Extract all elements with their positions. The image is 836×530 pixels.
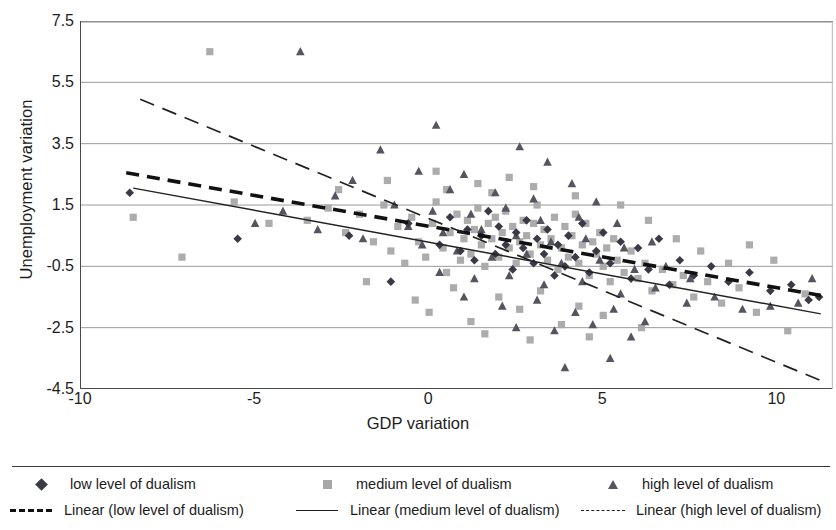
y-tick-label: 1.5 bbox=[4, 196, 74, 214]
data-point-square bbox=[433, 198, 440, 205]
legend-item-thick-dashed-line[interactable]: Linear (low level of dualism) bbox=[0, 497, 244, 523]
data-point-triangle bbox=[428, 207, 437, 215]
data-point-square bbox=[645, 217, 652, 224]
data-point-triangle bbox=[512, 323, 521, 331]
y-tick-label: 3.5 bbox=[4, 135, 74, 153]
thick-dashed-line bbox=[0, 509, 64, 512]
data-point-square bbox=[600, 263, 607, 270]
data-point-square bbox=[478, 241, 485, 248]
solid-line bbox=[284, 510, 350, 511]
data-point-square bbox=[600, 312, 607, 319]
data-point-square bbox=[572, 192, 579, 199]
data-point-square bbox=[370, 238, 377, 245]
x-tick-label: -10 bbox=[68, 390, 91, 408]
data-point-square bbox=[561, 223, 568, 230]
data-point-diamond bbox=[655, 234, 664, 243]
data-point-square bbox=[746, 241, 753, 248]
data-point-square bbox=[178, 254, 185, 261]
x-tick-label: 5 bbox=[598, 390, 607, 408]
triangle-marker bbox=[584, 480, 642, 489]
data-point-triangle bbox=[682, 299, 691, 307]
legend-item-solid-line[interactable]: Linear (medium level of dualism) bbox=[284, 497, 560, 523]
data-point-square bbox=[467, 318, 474, 325]
data-point-diamond bbox=[233, 234, 242, 243]
data-point-square bbox=[579, 241, 586, 248]
legend-label: medium level of dualism bbox=[356, 476, 512, 492]
legend-item-diamond-marker[interactable]: low level of dualism bbox=[12, 471, 196, 497]
legend-label: Linear (high level of dualism) bbox=[636, 502, 821, 518]
data-point-square bbox=[697, 247, 704, 254]
x-tick-label: -5 bbox=[247, 390, 261, 408]
data-point-diamond bbox=[676, 256, 685, 265]
data-point-square bbox=[704, 278, 711, 285]
legend-label: Linear (medium level of dualism) bbox=[350, 502, 560, 518]
y-axis-ticks: 7.55.53.51.5-0.5-2.5-4.5 bbox=[0, 0, 74, 448]
trendline bbox=[140, 99, 822, 381]
data-point-square bbox=[516, 306, 523, 313]
data-point-triangle bbox=[279, 207, 288, 215]
data-point-triangle bbox=[561, 363, 570, 371]
data-point-triangle bbox=[376, 145, 385, 153]
data-point-triangle bbox=[613, 219, 622, 227]
triangle-marker-glyph bbox=[608, 480, 618, 489]
data-point-square bbox=[495, 293, 502, 300]
data-point-triangle bbox=[251, 219, 260, 227]
data-point-square bbox=[433, 168, 440, 175]
square-marker-glyph bbox=[323, 480, 332, 489]
data-point-square bbox=[621, 269, 628, 276]
scatter-chart: Unemployment variation 7.55.53.51.5-0.5-… bbox=[0, 0, 836, 448]
data-point-square bbox=[558, 321, 565, 328]
data-point-triangle bbox=[543, 157, 552, 165]
data-point-square bbox=[481, 330, 488, 337]
long-dashed-line-glyph bbox=[581, 510, 625, 511]
data-point-square bbox=[231, 198, 238, 205]
data-point-triangle bbox=[588, 320, 597, 328]
data-point-square bbox=[457, 257, 464, 264]
legend-label: high level of dualism bbox=[642, 476, 773, 492]
chart-legend: low level of dualismmedium level of dual… bbox=[12, 466, 830, 522]
legend-item-long-dashed-line[interactable]: Linear (high level of dualism) bbox=[570, 497, 821, 523]
data-point-diamond bbox=[745, 268, 754, 277]
data-point-triangle bbox=[359, 234, 368, 242]
data-point-square bbox=[638, 324, 645, 331]
data-point-triangle bbox=[738, 305, 747, 313]
data-point-diamond bbox=[484, 207, 493, 216]
data-point-square bbox=[130, 214, 137, 221]
data-point-square bbox=[481, 263, 488, 270]
data-point-triangle bbox=[435, 268, 444, 276]
square-marker bbox=[298, 480, 356, 489]
legend-label: low level of dualism bbox=[70, 476, 196, 492]
data-point-square bbox=[443, 269, 450, 276]
data-point-square bbox=[206, 48, 213, 55]
legend-label: Linear (low level of dualism) bbox=[64, 502, 244, 518]
data-point-triangle bbox=[533, 295, 542, 303]
data-point-square bbox=[589, 238, 596, 245]
data-point-square bbox=[607, 278, 614, 285]
data-point-square bbox=[408, 214, 415, 221]
data-point-square bbox=[422, 254, 429, 261]
x-axis-label: GDP variation bbox=[0, 414, 836, 433]
legend-item-square-marker[interactable]: medium level of dualism bbox=[298, 471, 512, 497]
data-point-square bbox=[523, 232, 530, 239]
data-point-triangle bbox=[592, 197, 601, 205]
data-point-square bbox=[485, 220, 492, 227]
data-point-triangle bbox=[460, 292, 469, 300]
legend-item-triangle-marker[interactable]: high level of dualism bbox=[584, 471, 773, 497]
data-point-triangle bbox=[348, 176, 357, 184]
data-point-square bbox=[690, 293, 697, 300]
data-point-square bbox=[387, 247, 394, 254]
series-square bbox=[130, 48, 809, 343]
data-point-diamond bbox=[634, 244, 643, 253]
data-point-square bbox=[533, 201, 540, 208]
data-point-square bbox=[575, 303, 582, 310]
data-point-square bbox=[718, 300, 725, 307]
data-point-triangle bbox=[568, 179, 577, 187]
data-point-triangle bbox=[467, 210, 476, 218]
data-point-square bbox=[610, 235, 617, 242]
data-point-square bbox=[325, 204, 332, 211]
data-point-square bbox=[474, 204, 481, 211]
data-point-triangle bbox=[460, 170, 469, 178]
data-point-triangle bbox=[432, 121, 441, 129]
y-tick-label: -0.5 bbox=[4, 257, 74, 275]
diamond-marker bbox=[12, 480, 70, 489]
